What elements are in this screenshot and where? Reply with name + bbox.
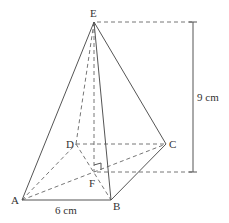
label-E: E: [90, 7, 97, 19]
label-F: F: [89, 177, 95, 189]
right-angle-marker: [94, 163, 101, 170]
label-D: D: [66, 138, 74, 150]
edge-AE: [22, 22, 94, 200]
base-edge-label: 6 cm: [55, 204, 77, 216]
edge-BE: [94, 22, 111, 200]
label-C: C: [169, 138, 176, 150]
height-label: 9 cm: [197, 91, 219, 103]
edge-DE: [76, 22, 94, 144]
edge-AD: [22, 144, 76, 200]
label-A: A: [11, 194, 19, 206]
label-B: B: [113, 200, 120, 212]
edge-CE: [94, 22, 166, 144]
pyramid-diagram: E D C F A B 6 cm 9 cm: [0, 0, 229, 223]
